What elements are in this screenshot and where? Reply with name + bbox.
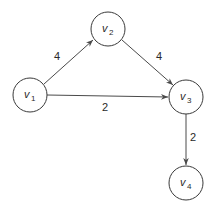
node-v2-circle — [91, 12, 125, 46]
edges — [44, 40, 186, 165]
edge-v1-v2 — [44, 40, 93, 84]
node-v2-subscript: 2 — [109, 28, 114, 37]
edge-weight-v1-v2: 4 — [54, 50, 60, 62]
edge-weight-v2-v3: 4 — [156, 50, 162, 62]
node-v1: v 1 — [13, 78, 47, 112]
node-v3-circle — [169, 80, 203, 114]
node-v4-circle — [169, 166, 203, 200]
node-v1-subscript: 1 — [31, 94, 36, 103]
node-v1-circle — [13, 78, 47, 112]
edge-weight-v1-v3: 2 — [102, 101, 108, 113]
node-v2: v 2 — [91, 12, 125, 46]
node-v4-subscript: 4 — [187, 182, 192, 191]
edge-weight-v3-v4: 2 — [190, 131, 196, 143]
edge-v1-v3 — [47, 95, 168, 97]
graph-diagram: 4 4 2 2 v 1 v 2 v 3 v 4 — [0, 0, 216, 206]
node-v4: v 4 — [169, 166, 203, 200]
node-v3: v 3 — [169, 80, 203, 114]
edge-v2-v3 — [122, 40, 173, 85]
node-v3-subscript: 3 — [187, 96, 192, 105]
